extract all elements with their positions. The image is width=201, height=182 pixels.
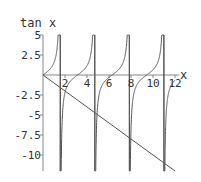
- y-tick-label: -7.5: [15, 129, 42, 142]
- x-tick-label: 2: [62, 77, 69, 90]
- y-tick-label: 5: [34, 29, 41, 42]
- x-axis-label: x: [180, 68, 187, 82]
- x-tick-label: 6: [106, 77, 113, 90]
- x-tick-label: 10: [146, 77, 159, 90]
- y-axis-label: tan x: [20, 16, 56, 30]
- y-tick-label: -2.5: [15, 89, 42, 102]
- x-tick-label: 4: [84, 77, 91, 90]
- tan-branch: [60, 35, 95, 171]
- tan-x-plot: 2468101252.5-2.5-5-7.5-10xtan x: [0, 0, 201, 182]
- curves: [43, 35, 175, 171]
- y-tick-label: 2.5: [21, 49, 41, 62]
- tan-branch: [164, 80, 175, 171]
- tan-branch: [95, 35, 130, 171]
- x-tick-label: 8: [128, 77, 135, 90]
- y-tick-label: -10: [21, 149, 41, 162]
- axes: [40, 35, 179, 171]
- y-tick-label: -5: [28, 109, 41, 122]
- tan-branch: [43, 35, 60, 171]
- plot-svg: 2468101252.5-2.5-5-7.5-10xtan x: [0, 0, 201, 182]
